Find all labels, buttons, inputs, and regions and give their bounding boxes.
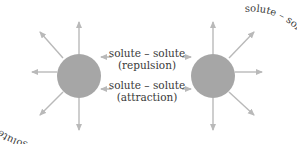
attraction-label-line1: solute – solute — [109, 79, 185, 91]
repulsion-label-line2: (repulsion) — [118, 59, 176, 71]
right-solute-particle — [191, 54, 235, 98]
attraction-label-line2: (attraction) — [117, 91, 178, 103]
right-solvent-label: solute – solvent – (attraction) — [244, 3, 297, 120]
arrow-downleft-icon — [40, 92, 63, 115]
arrow-upright-icon — [229, 32, 254, 58]
arrow-downright-icon — [229, 92, 254, 115]
left-solvent-label: solute – solvent (attraction) — [0, 27, 28, 144]
left-solute-particle — [57, 54, 101, 98]
diagram-canvas: solute – solute (repulsion) solute – sol… — [0, 0, 297, 144]
arrow-upleft-icon — [40, 32, 63, 58]
interaction-diagram: solute – solute (repulsion) solute – sol… — [0, 0, 297, 144]
repulsion-label-line1: solute – solute — [109, 47, 185, 59]
